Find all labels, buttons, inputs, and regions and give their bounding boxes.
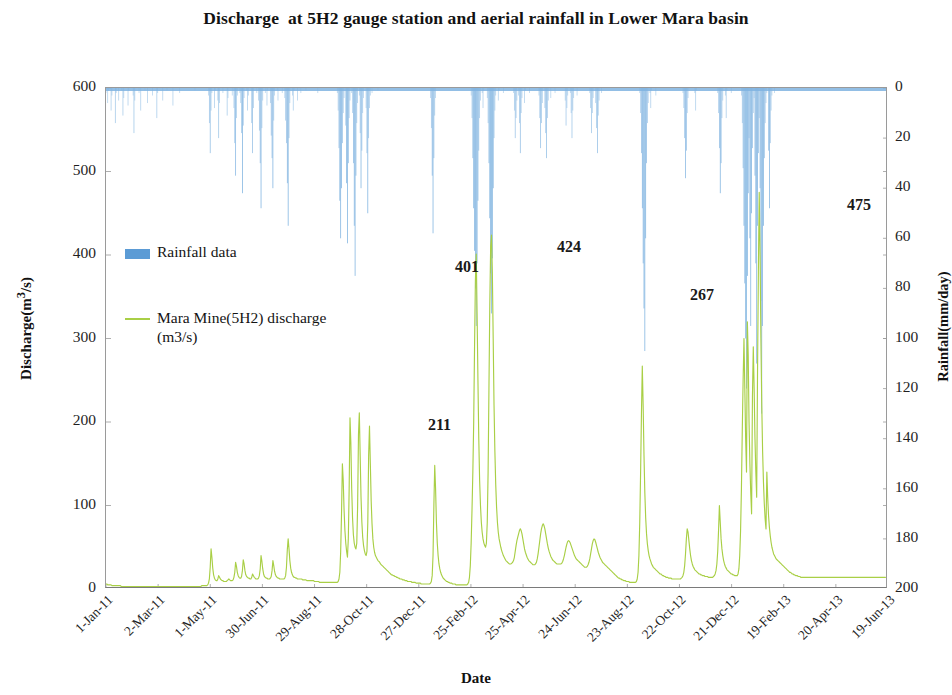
x-axis-ticks: 1-Jan-112-Mar-111-May-1130-Jun-1129-Aug-… bbox=[0, 0, 952, 695]
peak-value-annotation: 211 bbox=[428, 416, 451, 434]
x-axis-tick-label: 25-Apr-12 bbox=[482, 592, 533, 643]
x-axis-tick-text: 19-Jun-13 bbox=[848, 592, 898, 642]
x-axis-tick-text: 25-Apr-12 bbox=[482, 592, 533, 643]
rainfall-color-swatch bbox=[125, 249, 150, 259]
chart-figure: Discharge at 5H2 gauge station and aeria… bbox=[0, 0, 952, 695]
legend-item-rainfall[interactable]: Rainfall data bbox=[125, 242, 237, 261]
x-axis-tick-label: 28-Oct-11 bbox=[327, 592, 377, 642]
x-axis-tick-label: 23-Aug-12 bbox=[584, 592, 637, 645]
x-axis-tick-label: 27-Dec-11 bbox=[377, 592, 429, 644]
peak-value-annotation: 401 bbox=[455, 258, 479, 276]
x-axis-tick-label: 25-Feb-12 bbox=[430, 592, 481, 643]
x-axis-tick-text: 28-Oct-11 bbox=[327, 592, 377, 642]
x-axis-tick-label: 1-May-11 bbox=[171, 592, 220, 641]
x-axis-tick-text: 22-Oct-12 bbox=[639, 592, 690, 643]
x-axis-tick-label: 2-Mar-11 bbox=[121, 592, 168, 639]
peak-value-annotation: 424 bbox=[557, 238, 581, 256]
x-axis-tick-text: 1-May-11 bbox=[171, 592, 220, 641]
x-axis-tick-label: 21-Dec-12 bbox=[690, 592, 742, 644]
x-axis-tick-label: 29-Aug-11 bbox=[272, 592, 325, 645]
x-axis-tick-text: 19-Feb-13 bbox=[743, 592, 794, 643]
legend-label-rainfall: Rainfall data bbox=[157, 242, 237, 261]
x-axis-title: Date bbox=[0, 670, 952, 687]
x-axis-tick-text: 1-Jan-11 bbox=[72, 592, 116, 636]
legend-item-discharge[interactable]: Mara Mine(5H2) discharge (m3/s) bbox=[125, 308, 326, 346]
x-axis-tick-text: 21-Dec-12 bbox=[690, 592, 742, 644]
x-axis-tick-text: 23-Aug-12 bbox=[584, 592, 637, 645]
x-axis-tick-label: 20-Apr-13 bbox=[795, 592, 846, 643]
x-axis-tick-label: 30-Jun-11 bbox=[223, 592, 273, 642]
x-axis-tick-label: 24-Jun-12 bbox=[535, 592, 585, 642]
x-axis-tick-label: 19-Feb-13 bbox=[743, 592, 794, 643]
x-axis-tick-text: 27-Dec-11 bbox=[377, 592, 429, 644]
peak-value-annotation: 475 bbox=[847, 196, 871, 214]
x-axis-tick-text: 2-Mar-11 bbox=[121, 592, 168, 639]
x-axis-tick-text: 25-Feb-12 bbox=[430, 592, 481, 643]
x-axis-tick-text: 30-Jun-11 bbox=[223, 592, 273, 642]
x-axis-tick-label: 19-Jun-13 bbox=[848, 592, 898, 642]
x-axis-tick-text: 29-Aug-11 bbox=[272, 592, 325, 645]
x-axis-tick-text: 20-Apr-13 bbox=[795, 592, 846, 643]
x-axis-tick-label: 22-Oct-12 bbox=[639, 592, 690, 643]
x-axis-tick-label: 1-Jan-11 bbox=[72, 592, 116, 636]
x-axis-tick-text: 24-Jun-12 bbox=[535, 592, 585, 642]
discharge-color-swatch bbox=[125, 318, 150, 320]
peak-value-annotation: 267 bbox=[690, 286, 714, 304]
legend-label-discharge: Mara Mine(5H2) discharge (m3/s) bbox=[157, 308, 326, 346]
